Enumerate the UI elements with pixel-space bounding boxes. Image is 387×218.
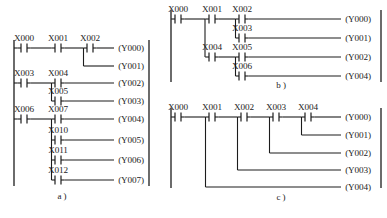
coil-label-Y000: (Y000)	[345, 112, 371, 122]
coil-label-Y000: (Y000)	[345, 14, 371, 24]
coil-Y004: (Y004)	[345, 182, 371, 192]
panel-b: X000X001X002X003X004X005X006(Y000)(Y001)…	[168, 4, 381, 83]
contact-label-X001: X001	[202, 102, 222, 112]
coil-label-Y004: (Y004)	[118, 114, 144, 124]
contact-label-X006: X006	[14, 104, 34, 114]
coil-Y001: (Y001)	[345, 130, 371, 140]
coil-Y002: (Y002)	[118, 78, 144, 88]
coil-Y002: (Y002)	[345, 148, 371, 158]
coil-label-Y005: (Y005)	[118, 135, 144, 145]
coil-Y006: (Y006)	[118, 155, 144, 165]
contact-label-X001: X001	[48, 33, 68, 43]
coil-label-Y001: (Y001)	[345, 130, 371, 140]
coil-label-Y006: (Y006)	[118, 155, 144, 165]
coil-label-Y002: (Y002)	[118, 78, 144, 88]
contact-label-X007: X007	[48, 104, 68, 114]
contact-label-X005: X005	[48, 86, 68, 96]
contact-label-X000: X000	[168, 102, 188, 112]
coil-label-Y001: (Y001)	[345, 33, 371, 43]
coil-label-Y007: (Y007)	[118, 175, 144, 185]
contact-label-X000: X000	[14, 33, 34, 43]
contact-label-X003: X003	[232, 23, 252, 33]
coil-label-Y004: (Y004)	[345, 182, 371, 192]
coil-Y004: (Y004)	[345, 71, 371, 81]
contact-label-X002: X002	[232, 4, 252, 14]
ladder-diagram-figure: X000X001X002X003X004X005X006X007X010X011…	[0, 0, 387, 218]
contact-X006: X006	[14, 104, 34, 124]
coil-Y003: (Y003)	[118, 96, 144, 106]
contact-label-X010: X010	[48, 125, 68, 135]
coil-Y001: (Y001)	[118, 61, 144, 71]
coil-label-Y000: (Y000)	[118, 43, 144, 53]
contact-label-X002: X002	[234, 102, 254, 112]
coil-label-Y003: (Y003)	[118, 96, 144, 106]
coil-label-Y002: (Y002)	[345, 52, 371, 62]
coil-Y003: (Y003)	[345, 165, 371, 175]
contact-label-X001: X001	[202, 4, 222, 14]
coil-Y000: (Y000)	[118, 43, 144, 53]
contact-label-X006: X006	[232, 61, 252, 71]
contact-X003: X003	[14, 68, 34, 88]
caption-panel-c: c )	[276, 192, 285, 202]
coil-Y001: (Y001)	[345, 33, 371, 43]
coil-Y005: (Y005)	[118, 135, 144, 145]
coil-Y000: (Y000)	[345, 112, 371, 122]
ladder-diagram-canvas: X000X001X002X003X004X005X006X007X010X011…	[0, 0, 387, 218]
contact-label-X004: X004	[202, 42, 222, 52]
contact-X001: X001	[48, 33, 68, 53]
contact-label-X002: X002	[80, 33, 100, 43]
panel-a: X000X001X002X003X004X005X006X007X010X011…	[14, 33, 149, 187]
panel-c: X000X001X002X003X004(Y000)(Y001)(Y002)(Y…	[168, 102, 381, 193]
contact-label-X005: X005	[232, 42, 252, 52]
contact-label-X004: X004	[298, 102, 318, 112]
contact-X000: X000	[14, 33, 34, 53]
coil-label-Y001: (Y001)	[118, 61, 144, 71]
coil-label-Y003: (Y003)	[345, 165, 371, 175]
coil-Y004: (Y004)	[118, 114, 144, 124]
contact-label-X012: X012	[48, 165, 68, 175]
coil-label-Y002: (Y002)	[345, 148, 371, 158]
contact-label-X003: X003	[14, 68, 34, 78]
coil-Y007: (Y007)	[118, 175, 144, 185]
caption-panel-b: b )	[276, 80, 286, 90]
contact-label-X003: X003	[266, 102, 286, 112]
coil-Y000: (Y000)	[345, 14, 371, 24]
contact-label-X000: X000	[168, 4, 188, 14]
coil-label-Y004: (Y004)	[345, 71, 371, 81]
contact-label-X004: X004	[48, 68, 68, 78]
caption-panel-a: a )	[57, 191, 66, 201]
coil-Y002: (Y002)	[345, 52, 371, 62]
contact-label-X011: X011	[48, 145, 68, 155]
